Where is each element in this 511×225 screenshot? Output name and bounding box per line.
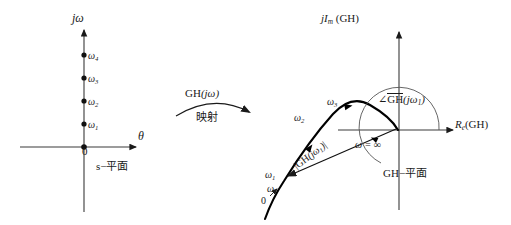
- s-plane-label-omega1: ω1: [88, 120, 98, 131]
- mapping-function-label: GH(jω): [185, 88, 219, 99]
- nyquist-curve: [265, 101, 398, 219]
- s-plane-dot-omega3: [81, 75, 86, 80]
- s-plane-real-axis-label: θ: [138, 130, 144, 142]
- s-plane-dot-omega1: [81, 121, 86, 126]
- gh-plane-imaginary-axis-label: jIm (GH): [321, 13, 359, 26]
- s-plane-dot-omega4: [81, 52, 86, 57]
- s-plane-dot-omega2: [81, 98, 86, 103]
- gh-plane-axes: [338, 32, 453, 210]
- s-plane-axes: [20, 30, 136, 212]
- gh-plane-label-omega3: ω3: [327, 97, 337, 108]
- s-plane-label-omega3: ω3: [88, 74, 98, 85]
- omega-infinity-label: ω = ∞: [355, 140, 381, 150]
- mapping-chinese-label: 映射: [196, 112, 218, 123]
- gh-plane-real-axis-label: Re(GH): [455, 119, 488, 132]
- gh-plane-name-label: GH−平面: [383, 168, 427, 179]
- gh-plane-label-zero: 0: [261, 196, 266, 206]
- s-plane-imaginary-axis-label: jω: [72, 12, 84, 24]
- nyquist-mapping-figure: jω θ 0 s−平面 ω4 ω3 ω2 ω1 GH(jω) 映射 jIm (G…: [0, 0, 511, 225]
- gh-plane-label-omega2: ω2: [294, 113, 304, 124]
- s-plane-label-omega2: ω2: [88, 97, 98, 108]
- s-plane-origin-label: 0: [82, 146, 88, 157]
- s-plane-name-label: s−平面: [96, 161, 128, 172]
- figure-vector-layer: [0, 0, 511, 225]
- s-plane-label-omega4: ω4: [88, 51, 98, 62]
- phase-angle-label: ∠GH(jω1): [378, 93, 425, 107]
- gh-plane-label-omega1: ω1: [265, 170, 275, 181]
- gh-plane-label-omega-limit: ω: [267, 184, 274, 194]
- angle-symbol: ∠: [378, 93, 387, 105]
